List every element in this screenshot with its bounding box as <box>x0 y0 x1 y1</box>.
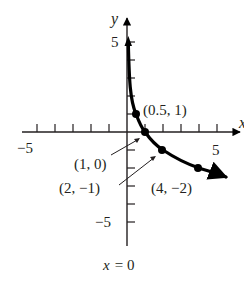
x-axis-label: x <box>238 114 244 131</box>
leader-arrow-one-zero <box>134 138 140 143</box>
label-two-neg-one: (2, −1) <box>59 180 100 197</box>
label-one-zero: (1, 0) <box>74 156 107 173</box>
y-axis-label: y <box>109 10 119 28</box>
point-two-neg-one <box>158 146 166 154</box>
curve-arrow-up-icon <box>125 36 133 46</box>
x-tick-label-5: 5 <box>212 142 220 158</box>
point-four-neg-two <box>194 164 202 172</box>
leader-two-neg-one <box>119 157 155 185</box>
y-tick-label-5: 5 <box>111 34 119 50</box>
label-four-neg-two: (4, −2) <box>151 180 192 197</box>
log-graph: y x −5 5 5 −5 (0.5, 1) (1, 0) (2, −1) (4… <box>0 0 244 281</box>
asymptote-caption: x= 0 <box>102 257 134 273</box>
y-tick-label-neg5: −5 <box>95 214 111 230</box>
leader-one-zero <box>111 139 139 155</box>
point-half-one <box>132 110 140 118</box>
x-tick-label-neg5: −5 <box>17 140 33 156</box>
point-one-zero <box>141 128 149 136</box>
label-half-one: (0.5, 1) <box>143 102 187 119</box>
